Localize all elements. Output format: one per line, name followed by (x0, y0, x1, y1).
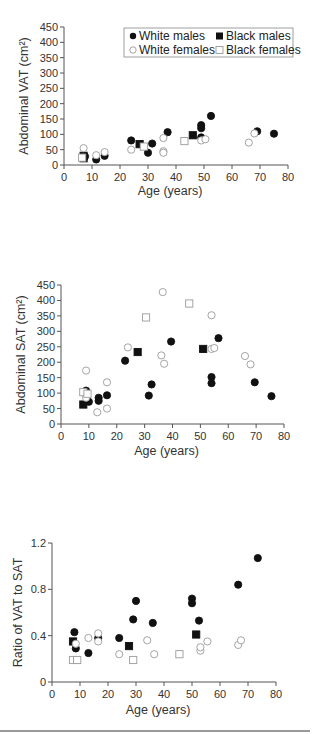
data-point (144, 637, 151, 644)
white-females-marker-icon (130, 47, 136, 53)
legend: White males Black males White females Bl… (124, 28, 301, 57)
data-point (101, 149, 108, 156)
y-tick-label: 400 (40, 36, 58, 48)
data-point (116, 651, 123, 658)
data-point (208, 312, 215, 319)
data-point (241, 352, 248, 359)
data-point (197, 644, 204, 651)
y-tick-label: 400 (37, 294, 55, 306)
y-tick-label: 0 (49, 418, 55, 430)
x-tick-label: 50 (198, 171, 210, 183)
y-tick-label: 50 (43, 403, 55, 415)
data-point (95, 638, 102, 645)
data-point (158, 352, 165, 359)
data-point (149, 140, 156, 147)
data-point (160, 149, 167, 156)
data-point (149, 619, 156, 626)
x-axis-label: Age (years) (138, 184, 203, 198)
data-point (237, 637, 244, 644)
data-point (151, 651, 158, 658)
data-point (122, 357, 129, 364)
x-tick-label: 60 (214, 688, 226, 700)
data-point (189, 132, 196, 139)
x-tick-label: 70 (254, 171, 266, 183)
x-tick-label: 0 (49, 688, 55, 700)
data-point (159, 289, 166, 296)
data-point (85, 634, 92, 641)
y-tick-label: 300 (37, 325, 55, 337)
y-tick-label: 250 (40, 82, 58, 94)
data-point (79, 154, 86, 161)
data-point (124, 344, 131, 351)
data-point (181, 137, 188, 144)
x-tick-label: 0 (58, 430, 64, 442)
data-point (235, 581, 242, 588)
y-tick-label: 250 (37, 341, 55, 353)
data-point (74, 656, 81, 663)
data-point (84, 390, 91, 397)
y-tick-label: 300 (40, 67, 58, 79)
y-tick-label: 450 (40, 21, 58, 33)
data-point (80, 145, 87, 152)
data-point (85, 649, 92, 656)
data-point (215, 335, 222, 342)
x-tick-label: 30 (130, 688, 142, 700)
y-axis-label: Abdominal SAT (cm²) (14, 295, 28, 413)
data-point (82, 367, 89, 374)
x-tick-label: 40 (170, 171, 182, 183)
data-point (186, 300, 193, 307)
x-tick-label: 10 (86, 171, 98, 183)
x-tick-label: 80 (282, 171, 294, 183)
data-point (168, 338, 175, 345)
data-point (116, 634, 123, 641)
x-tick-label: 60 (222, 430, 234, 442)
data-point (95, 397, 102, 404)
x-tick-label: 10 (83, 430, 95, 442)
data-point (188, 600, 195, 607)
y-tick-label: 50 (46, 144, 58, 156)
y-tick-label: 350 (40, 52, 58, 64)
x-tick-label: 40 (166, 430, 178, 442)
data-point (195, 617, 202, 624)
data-point (208, 380, 215, 387)
y-axis-label: Ratio of VAT to SAT (11, 557, 25, 667)
y-tick-label: 200 (37, 356, 55, 368)
white-males-marker-icon (130, 33, 136, 39)
data-point (193, 631, 200, 638)
x-tick-label: 80 (270, 688, 282, 700)
x-tick-label: 20 (111, 430, 123, 442)
data-point (71, 629, 78, 636)
data-point (93, 152, 100, 159)
data-point (207, 112, 214, 119)
x-tick-label: 50 (194, 430, 206, 442)
legend-black-males: Black males (226, 29, 291, 43)
data-point (161, 360, 168, 367)
data-point (247, 361, 254, 368)
data-point (128, 137, 135, 144)
figure-canvas: 0501001502002503003504004500102030405060… (0, 0, 316, 734)
data-point (134, 348, 141, 355)
data-point (103, 405, 110, 412)
data-point (204, 638, 211, 645)
legend-black-females: Black females (226, 43, 301, 57)
data-point (125, 642, 132, 649)
data-point (148, 381, 155, 388)
data-point (145, 392, 152, 399)
data-point (251, 379, 258, 386)
x-tick-label: 30 (139, 430, 151, 442)
y-tick-label: 150 (40, 113, 58, 125)
y-tick-label: 100 (40, 128, 58, 140)
y-tick-label: 450 (37, 279, 55, 291)
data-point (103, 392, 110, 399)
x-tick-label: 50 (186, 688, 198, 700)
data-point (211, 344, 218, 351)
y-tick-label: 200 (40, 98, 58, 110)
x-axis-label: Age (years) (134, 444, 199, 458)
y-tick-label: 0.8 (31, 583, 46, 595)
x-tick-label: 20 (114, 171, 126, 183)
ratio-chart: 00.40.81.201020304050607080Age (years)Ra… (11, 537, 282, 717)
data-point (72, 640, 79, 647)
legend-white-females: White females (139, 43, 215, 57)
y-tick-label: 1.2 (31, 537, 46, 549)
data-point (270, 130, 277, 137)
